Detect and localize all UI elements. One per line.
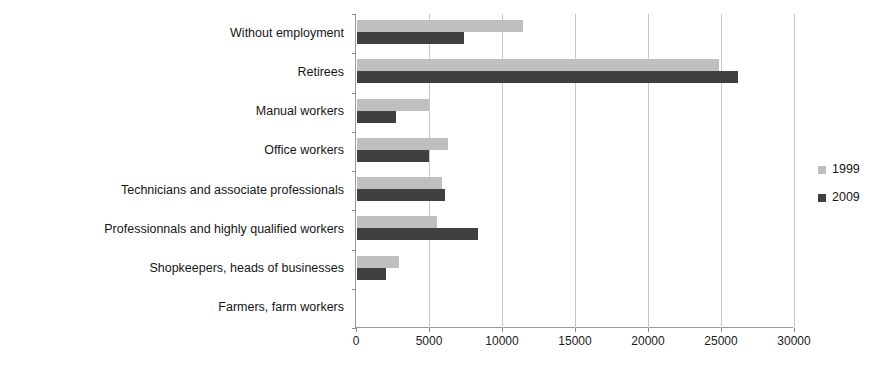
legend-label: 2009: [832, 191, 860, 204]
bar-1999-2: [357, 99, 429, 111]
category-label: Without employment: [0, 27, 344, 40]
bar-1999-5: [357, 216, 437, 228]
y-axis-tick: [352, 210, 356, 211]
legend-swatch-icon: [818, 166, 826, 174]
category-label: Retirees: [0, 66, 344, 79]
plot-area: 050001000015000200002500030000: [355, 14, 793, 328]
legend-item-2009[interactable]: 2009: [818, 188, 880, 207]
bar-1999-3: [357, 138, 448, 150]
y-axis-tick: [352, 14, 356, 15]
x-axis-tick: [648, 328, 649, 332]
category-label: Professionnals and highly qualified work…: [0, 223, 344, 236]
bar-2009-4: [357, 189, 445, 201]
legend-label: 1999: [832, 163, 860, 176]
bar-2009-0: [357, 32, 464, 44]
x-axis-tick-label: 20000: [631, 334, 664, 348]
category-label: Manual workers: [0, 105, 344, 118]
bar-2009-3: [357, 150, 429, 162]
x-axis-tick: [429, 328, 430, 332]
x-axis-tick-label: 25000: [704, 334, 737, 348]
x-axis-tick-label: 5000: [416, 334, 443, 348]
chart-title: [0, 0, 885, 4]
chart-legend: 19992009: [818, 160, 880, 216]
x-axis-tick: [356, 328, 357, 332]
x-gridline: [721, 14, 722, 328]
bar-1999-4: [357, 177, 442, 189]
bar-2009-5: [357, 228, 478, 240]
y-axis-tick: [352, 250, 356, 251]
x-axis-tick-label: 30000: [777, 334, 810, 348]
y-axis-tick: [352, 53, 356, 54]
category-label: Farmers, farm workers: [0, 301, 344, 314]
x-axis-tick: [502, 328, 503, 332]
bar-2009-6: [357, 268, 386, 280]
legend-swatch-icon: [818, 194, 826, 202]
bar-chart: Without employmentRetireesManual workers…: [0, 0, 885, 374]
bar-2009-2: [357, 111, 396, 123]
category-label: Shopkeepers, heads of businesses: [0, 262, 344, 275]
y-axis-tick: [352, 132, 356, 133]
y-axis-tick: [352, 328, 356, 329]
y-axis-tick: [352, 93, 356, 94]
category-label: Office workers: [0, 144, 344, 157]
legend-item-1999[interactable]: 1999: [818, 160, 880, 179]
x-axis-tick: [575, 328, 576, 332]
y-axis-tick: [352, 171, 356, 172]
bar-1999-0: [357, 20, 523, 32]
y-axis-tick: [352, 289, 356, 290]
x-axis-tick-label: 10000: [485, 334, 518, 348]
x-axis-tick-label: 0: [353, 334, 360, 348]
bar-1999-1: [357, 59, 719, 71]
x-axis-tick-label: 15000: [558, 334, 591, 348]
bar-2009-1: [357, 71, 738, 83]
x-axis-tick: [794, 328, 795, 332]
x-axis-tick: [721, 328, 722, 332]
bar-1999-6: [357, 256, 399, 268]
category-axis-labels: Without employmentRetireesManual workers…: [0, 14, 352, 328]
x-gridline: [794, 14, 795, 328]
category-label: Technicians and associate professionals: [0, 184, 344, 197]
